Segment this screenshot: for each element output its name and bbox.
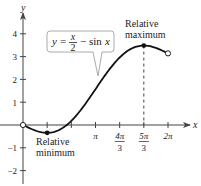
y-axis-label: y (20, 2, 26, 13)
chart: π4π35π32π4321−1−2 y = x 2 − sin x y x Re… (0, 0, 201, 186)
y-tick-label: −1 (7, 143, 17, 153)
eq-num: x (70, 31, 76, 42)
open-endpoint (20, 122, 25, 127)
x-axis-label: x (192, 119, 198, 130)
relative-minimum-label-line1: Relative (36, 136, 70, 147)
y-tick-label: −2 (7, 166, 17, 176)
relative-maximum-point (141, 43, 146, 48)
y-tick-label: 4 (13, 29, 18, 39)
x-tick-label-den: 3 (142, 143, 147, 153)
x-tick-label: 5π (139, 131, 149, 141)
relative-minimum-point (45, 130, 50, 135)
eq-x: x (104, 35, 110, 47)
y-tick-label: 2 (13, 75, 18, 85)
relative-maximum-label-line1: Relative (125, 18, 159, 29)
x-tick-label: 4π (115, 131, 125, 141)
eq-equals: = (60, 35, 66, 47)
x-tick-label: 2π (163, 131, 173, 141)
relative-minimum-label-line2: minimum (36, 147, 75, 158)
open-endpoint (165, 51, 170, 56)
eq-den: 2 (71, 42, 76, 53)
equation-callout: y = x 2 − sin x (47, 31, 114, 76)
eq-y: y (51, 35, 57, 47)
y-tick-label: 1 (13, 98, 18, 108)
relative-maximum-label-line2: maximum (125, 29, 166, 40)
x-tick-label: π (93, 131, 98, 141)
x-tick-label-den: 3 (117, 143, 122, 153)
y-tick-label: 3 (13, 52, 18, 62)
eq-sin: − sin (80, 35, 102, 47)
